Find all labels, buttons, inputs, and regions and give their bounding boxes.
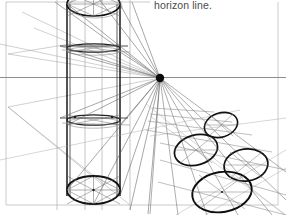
horizon-line-label: horizon line. xyxy=(154,0,212,12)
perspective-drawing-canvas xyxy=(0,0,286,215)
vanishing-point xyxy=(156,74,164,82)
perspective-drawing-figure: horizon line. xyxy=(0,0,286,215)
